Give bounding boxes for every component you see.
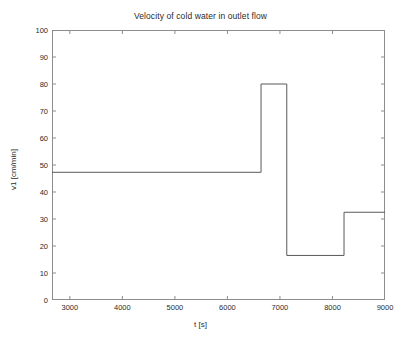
y-tick-label: 60 bbox=[22, 134, 48, 143]
y-tick-label: 90 bbox=[22, 53, 48, 62]
x-tick-label: 5000 bbox=[155, 303, 195, 312]
plot-area bbox=[52, 30, 385, 300]
y-axis-tick-labels: 0102030405060708090100 bbox=[20, 0, 48, 342]
y-tick-label: 30 bbox=[22, 215, 48, 224]
x-tick-label: 4000 bbox=[102, 303, 142, 312]
y-tick-label: 80 bbox=[22, 80, 48, 89]
x-axis-tick-labels: 3000400050006000700080009000 bbox=[0, 303, 401, 317]
x-tick-label: 6000 bbox=[207, 303, 247, 312]
y-axis-label: v1 [cm/min] bbox=[9, 125, 18, 215]
data-series-v1 bbox=[52, 84, 385, 255]
y-tick-label: 10 bbox=[22, 269, 48, 278]
figure-canvas: Velocity of cold water in outlet flow v1… bbox=[0, 0, 401, 342]
x-tick-label: 8000 bbox=[312, 303, 352, 312]
x-tick-label: 3000 bbox=[50, 303, 90, 312]
y-tick-label: 70 bbox=[22, 107, 48, 116]
axis-tick-marks bbox=[52, 30, 385, 300]
y-tick-label: 20 bbox=[22, 242, 48, 251]
x-tick-label: 7000 bbox=[260, 303, 300, 312]
y-tick-label: 100 bbox=[22, 26, 48, 35]
x-axis-label: t [s] bbox=[0, 320, 401, 329]
y-tick-label: 50 bbox=[22, 161, 48, 170]
y-tick-label: 40 bbox=[22, 188, 48, 197]
chart-title: Velocity of cold water in outlet flow bbox=[0, 11, 401, 21]
x-tick-label: 9000 bbox=[365, 303, 401, 312]
